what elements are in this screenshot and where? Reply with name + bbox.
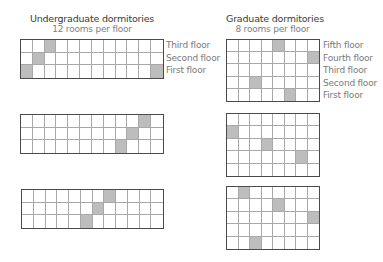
room [296,224,308,236]
room [273,89,285,101]
room [227,40,239,52]
room [92,40,104,53]
room-shaded [250,77,262,89]
room [239,64,251,76]
graduate-subtitle: 8 rooms per floor [226,24,319,34]
room [308,199,320,211]
room [116,40,128,53]
graduate-dorm-2-grid [226,113,320,177]
room [45,128,57,141]
room [33,65,45,78]
room [68,40,80,53]
room [68,53,80,66]
room [80,53,92,66]
room [116,65,128,78]
room [285,151,297,163]
room [273,187,285,199]
room-shaded [21,65,33,78]
room [262,224,274,236]
floor-label-fifth: Fifth floor [323,39,377,52]
room [33,40,45,53]
room [285,52,297,64]
room [262,126,274,138]
room [81,190,93,203]
room-shaded [285,89,297,101]
room [46,190,58,203]
room-shaded [116,140,128,153]
room [57,190,69,203]
room [104,40,116,53]
room [151,53,163,66]
room [56,115,68,128]
room [227,212,239,224]
room [22,203,34,216]
room [104,128,116,141]
room [250,199,262,211]
room [308,151,320,163]
room [80,140,92,153]
room [92,53,104,66]
graduate-title: Graduate dormitories [226,13,319,24]
room [285,212,297,224]
room [308,89,320,101]
room [57,215,69,228]
room [21,128,33,141]
room [151,190,163,203]
room-shaded [308,52,320,64]
room-shaded [151,65,163,78]
room [151,128,163,141]
room [227,187,239,199]
room [104,203,116,216]
room-shaded [308,212,320,224]
room [308,224,320,236]
room-shaded [273,40,285,52]
room [273,126,285,138]
room [116,190,128,203]
room [239,114,251,126]
room-shaded [273,199,285,211]
room [308,40,320,52]
room [56,40,68,53]
room [140,190,152,203]
room [139,40,151,53]
room [139,65,151,78]
room [57,203,69,216]
undergraduate-subtitle: 12 rooms per floor [20,24,164,34]
room [116,115,128,128]
room [104,65,116,78]
room [296,199,308,211]
room [227,164,239,176]
room [81,203,93,216]
room [296,114,308,126]
room [239,212,251,224]
room [140,215,152,228]
room [227,52,239,64]
room [262,199,274,211]
room [92,65,104,78]
room [227,139,239,151]
room [285,126,297,138]
room [239,164,251,176]
room [262,114,274,126]
room [127,65,139,78]
room [227,151,239,163]
room [46,215,58,228]
undergraduate-dorm-1-grid [20,39,164,79]
room-shaded [104,190,116,203]
room [250,212,262,224]
room-shaded [262,139,274,151]
floor-label-third: Third floor [166,39,220,52]
room [239,40,251,52]
room-shaded [139,115,151,128]
room [127,53,139,66]
room [296,164,308,176]
room [296,212,308,224]
room [250,126,262,138]
room [296,187,308,199]
room [139,53,151,66]
room [308,187,320,199]
room [33,115,45,128]
room [116,203,128,216]
undergraduate-dorm-3-grid [21,189,164,229]
room [68,128,80,141]
